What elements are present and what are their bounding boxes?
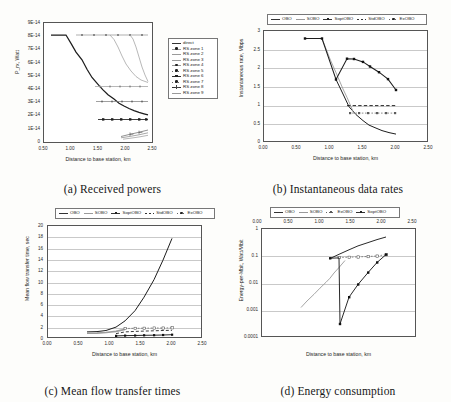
legend-item-obo[interactable]: OBO xyxy=(59,211,80,216)
line-swatch-icon xyxy=(145,211,154,216)
panel-c-xtick: 0.50 xyxy=(67,341,89,346)
panel-c-ytick: 10 xyxy=(29,280,43,285)
line-swatch-icon xyxy=(172,52,181,57)
panel-b-x-axis-title: Distance to base station, km xyxy=(263,155,428,161)
legend-item-exobo[interactable]: ExOBO xyxy=(177,211,203,216)
panel-c-xtick: 2.50 xyxy=(191,341,213,346)
panel-a-xtick: 1.00 xyxy=(59,146,81,151)
legend-item-stdobo[interactable]: StdOBO xyxy=(357,17,384,22)
panel-d-xtick: 1.00 xyxy=(308,219,330,224)
panel-d-ytick: 0.01 xyxy=(242,280,258,285)
panel-b-ytick: 3 xyxy=(242,28,260,33)
panel-b-ytick: 1.5 xyxy=(242,84,260,89)
panel-c-mean-flow-transfer-times: OBO SOBO SoptOBO StdOBO ExOBO Mean flow … xyxy=(0,201,225,402)
panel-c-x-axis-title: Distance to base station, km xyxy=(47,351,202,357)
panel-c-ytick: 16 xyxy=(29,246,43,251)
panel-a-x-axis-title: Distance to base station, km xyxy=(43,156,153,162)
line-swatch-icon xyxy=(274,210,283,215)
line-swatch-icon xyxy=(172,63,181,68)
panel-a-xtick: 2.50 xyxy=(141,146,163,151)
panel-c-ytick: 8 xyxy=(29,291,43,296)
line-swatch-icon xyxy=(326,210,335,215)
line-swatch-icon xyxy=(59,211,68,216)
line-swatch-icon xyxy=(111,211,120,216)
panel-d-series-lines xyxy=(262,229,416,337)
legend-item-rs-zone-9[interactable]: RS zone 9 xyxy=(172,91,214,96)
panel-a-received-powers: P_rx, Watt 9E-14 8E-14 7E-14 6E-14 5E-14… xyxy=(0,0,225,201)
panel-c-ytick: 20 xyxy=(29,223,43,228)
panel-b-xtick: 0.00 xyxy=(252,145,274,150)
panel-a-ytick: 1E-14 xyxy=(18,126,40,131)
panel-d-energy-consumption: OBO SOBO ExOBO SoptOBO 0.00 0.50 1.00 1.… xyxy=(225,201,451,402)
panel-a-ytick: 9E-14 xyxy=(18,20,40,25)
line-swatch-icon xyxy=(172,58,181,63)
panel-d-legend[interactable]: OBO SOBO ExOBO SoptOBO xyxy=(270,207,400,218)
legend-item-sobo[interactable]: SOBO xyxy=(299,210,323,215)
panel-c-legend[interactable]: OBO SOBO SoptOBO StdOBO ExOBO xyxy=(55,208,215,219)
legend-item-obo[interactable]: OBO xyxy=(271,17,292,22)
panel-c-xtick: 0.00 xyxy=(36,341,58,346)
panel-c-caption: (c) Mean flow transfer times xyxy=(0,385,225,397)
legend-item-soptobo[interactable]: SoptOBO xyxy=(356,210,386,215)
panel-d-ytick: 0.1 xyxy=(242,253,258,258)
panel-b-ytick: 2 xyxy=(242,65,260,70)
panel-a-xtick: 0.50 xyxy=(32,146,54,151)
legend-item-soptobo[interactable]: SoptOBO xyxy=(111,211,141,216)
panel-d-xtick: 0.00 xyxy=(246,219,268,224)
panel-d-caption: (d) Energy consumption xyxy=(225,385,451,397)
panel-c-ytick: 18 xyxy=(29,234,43,239)
panel-b-xtick: 0.50 xyxy=(285,145,307,150)
panel-d-xtick: 2.00 xyxy=(370,219,392,224)
panel-c-xtick: 2.00 xyxy=(160,341,182,346)
line-swatch-icon xyxy=(299,210,308,215)
legend-item-exobo[interactable]: ExOBO xyxy=(389,17,415,22)
panel-b-xtick: 1.00 xyxy=(318,145,340,150)
panel-a-xtick: 1.50 xyxy=(87,146,109,151)
panel-a-ytick: 7E-14 xyxy=(18,46,40,51)
panel-a-ytick: 3E-14 xyxy=(18,99,40,104)
panel-c-xtick: 1.00 xyxy=(98,341,120,346)
line-swatch-icon xyxy=(323,17,332,22)
panel-a-series-lines xyxy=(44,23,153,143)
legend-item-sobo[interactable]: SOBO xyxy=(296,17,320,22)
line-swatch-icon xyxy=(389,17,398,22)
panel-d-ytick: 0.0001 xyxy=(240,334,258,339)
line-swatch-icon xyxy=(356,210,365,215)
panel-c-ytick: 4 xyxy=(29,313,43,318)
panel-b-caption: (b) Instantaneous data rates xyxy=(225,183,451,195)
legend-item-exobo[interactable]: ExOBO xyxy=(326,210,352,215)
legend-item-soptobo[interactable]: SoptOBO xyxy=(323,17,353,22)
line-swatch-icon xyxy=(172,74,181,79)
line-swatch-icon xyxy=(84,211,93,216)
line-swatch-icon xyxy=(357,17,366,22)
legend-item-stdobo[interactable]: StdOBO xyxy=(145,211,172,216)
panel-d-ytick: 0.001 xyxy=(242,307,258,312)
panel-c-series-lines xyxy=(48,226,202,338)
panel-d-ytick: 1 xyxy=(242,226,258,231)
panel-a-ytick: 2E-14 xyxy=(18,112,40,117)
panel-c-ytick: 14 xyxy=(29,257,43,262)
panel-b-instantaneous-data-rates: OBO SOBO SoptOBO StdOBO ExOBO Instantane… xyxy=(225,0,451,201)
line-swatch-icon xyxy=(177,211,186,216)
panel-a-plot-area xyxy=(43,22,153,143)
panel-a-xtick: 2.00 xyxy=(114,146,136,151)
line-swatch-icon xyxy=(172,41,181,46)
panel-a-ytick: 5E-14 xyxy=(18,73,40,78)
panel-b-legend[interactable]: OBO SOBO SoptOBO StdOBO ExOBO xyxy=(267,14,427,25)
panel-a-legend[interactable]: direct RS zone 1 RS zone 2 RS zone 3 RS … xyxy=(168,38,218,99)
panel-d-xtick: 2.50 xyxy=(401,219,423,224)
panel-b-plot-area xyxy=(263,30,428,142)
panel-c-ytick: 2 xyxy=(29,325,43,330)
panel-b-ytick: 1 xyxy=(242,102,260,107)
panel-a-ytick: 0 xyxy=(18,139,40,144)
line-swatch-icon xyxy=(172,91,181,96)
panel-a-ytick: 8E-14 xyxy=(18,33,40,38)
legend-item-sobo[interactable]: SOBO xyxy=(84,211,108,216)
panel-d-xtick: 0.50 xyxy=(277,219,299,224)
panel-b-series-lines xyxy=(264,31,428,142)
legend-item-obo[interactable]: OBO xyxy=(274,210,295,215)
panel-c-xtick: 1.50 xyxy=(129,341,151,346)
panel-a-ytick: 6E-14 xyxy=(18,60,40,65)
line-swatch-icon xyxy=(271,17,280,22)
panel-c-ytick: 6 xyxy=(29,302,43,307)
